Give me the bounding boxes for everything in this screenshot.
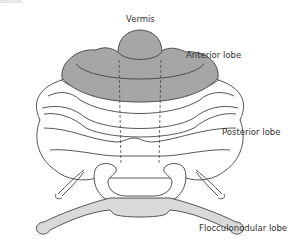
cerebellum-diagram (0, 0, 291, 241)
anterior-lobe (62, 30, 218, 102)
posterior-lobe-label: Posterior lobe (222, 127, 280, 137)
vermis-label: Vermis (126, 14, 155, 24)
flocculonodular-lobe-label: Flocculonodular lobe (199, 223, 287, 233)
anterior-lobe-label: Anterior lobe (186, 50, 241, 60)
